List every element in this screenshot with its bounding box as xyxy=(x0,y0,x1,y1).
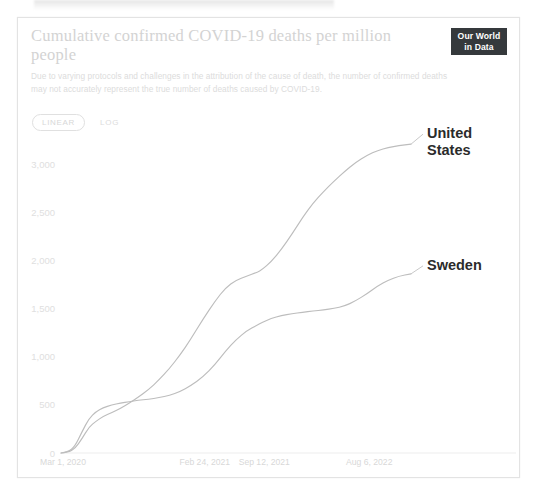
line-chart-svg: 05001,0001,5002,0002,5003,000 Mar 1, 202… xyxy=(18,18,521,479)
label-connector xyxy=(411,266,423,274)
x-tick-label: Feb 24, 2021 xyxy=(179,457,230,467)
chart-card: Cumulative confirmed COVID-19 deaths per… xyxy=(17,17,520,478)
y-tick-label: 3,000 xyxy=(31,159,55,170)
label-connector xyxy=(411,134,423,144)
series-line-sweden[interactable] xyxy=(61,274,411,453)
series-labels: UnitedStatesSweden xyxy=(427,125,482,273)
y-axis-ticks: 05001,0001,5002,0002,5003,000 xyxy=(31,159,55,458)
y-tick-label: 2,000 xyxy=(31,255,55,266)
x-tick-label: Sep 12, 2021 xyxy=(239,457,290,467)
series-label-sweden[interactable]: Sweden xyxy=(427,257,482,273)
scan-artifact xyxy=(34,0,334,10)
x-axis-ticks: Mar 1, 2020Feb 24, 2021Sep 12, 2021Aug 6… xyxy=(40,457,393,467)
y-tick-label: 1,000 xyxy=(31,351,55,362)
series-label-united-states[interactable]: States xyxy=(427,142,471,158)
y-tick-label: 1,500 xyxy=(31,303,55,314)
y-tick-label: 2,500 xyxy=(31,207,55,218)
y-tick-label: 500 xyxy=(39,399,55,410)
plot-area: 05001,0001,5002,0002,5003,000 Mar 1, 202… xyxy=(18,18,521,479)
series-label-united-states[interactable]: United xyxy=(427,125,472,141)
x-tick-label: Aug 6, 2022 xyxy=(346,457,393,467)
series-lines xyxy=(61,134,423,453)
x-tick-label: Mar 1, 2020 xyxy=(40,457,86,467)
